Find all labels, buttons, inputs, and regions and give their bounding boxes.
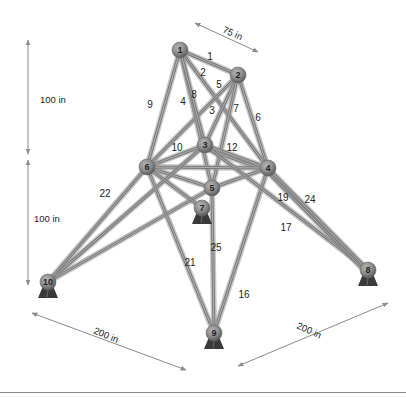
member-label-6: 6 <box>255 112 261 123</box>
member-20 <box>48 145 205 282</box>
member-label-24: 24 <box>304 194 316 205</box>
member-label-25: 25 <box>210 242 222 253</box>
node-9: 9 <box>206 325 222 341</box>
dimension-3: 200 in <box>32 313 186 370</box>
member-label-10: 10 <box>171 142 183 153</box>
dimension-4: 200 in <box>238 303 388 366</box>
node-label: 4 <box>265 163 270 173</box>
member-label-16: 16 <box>238 289 250 300</box>
node-label: 3 <box>202 140 207 150</box>
node-7: 7 <box>194 200 210 216</box>
member-label-22: 22 <box>99 188 111 199</box>
member-22 <box>48 167 147 282</box>
dimension-2: 100 in <box>28 160 60 285</box>
dimension-label: 200 in <box>92 325 120 345</box>
node-8: 8 <box>360 262 376 278</box>
member-label-17: 17 <box>280 222 292 233</box>
member-label-2: 2 <box>200 67 206 78</box>
node-label: 8 <box>365 265 370 275</box>
truss-diagram: 75 in100 in100 in200 in200 in 1234567891… <box>0 0 406 397</box>
dimension-label: 100 in <box>34 213 60 224</box>
node-1: 1 <box>172 42 188 58</box>
node-label: 6 <box>144 162 149 172</box>
member-25 <box>212 188 214 333</box>
member-6 <box>238 75 268 168</box>
node-label: 9 <box>211 328 216 338</box>
node-6: 6 <box>139 159 155 175</box>
dimension-label: 75 in <box>221 24 244 42</box>
member-label-3: 3 <box>209 105 215 116</box>
node-label: 10 <box>43 277 53 287</box>
member-label-21: 21 <box>184 257 196 268</box>
dimension-label: 200 in <box>295 320 323 341</box>
member-label-19: 19 <box>277 192 289 203</box>
member-label-7: 7 <box>233 103 239 114</box>
member-16 <box>214 168 268 333</box>
member-15 <box>147 167 268 168</box>
node-5: 5 <box>204 180 220 196</box>
dimension-1: 100 in <box>28 40 66 154</box>
node-4: 4 <box>260 160 276 176</box>
node-10: 10 <box>40 274 56 290</box>
node-label: 5 <box>209 183 214 193</box>
dimension-0: 75 in <box>195 23 258 52</box>
member-label-8: 8 <box>191 89 197 100</box>
node-label: 2 <box>235 70 240 80</box>
member-label-9: 9 <box>147 99 153 110</box>
node-label: 1 <box>177 45 182 55</box>
member-label-5: 5 <box>216 79 222 90</box>
node-3: 3 <box>197 137 213 153</box>
member-label-4: 4 <box>180 96 186 107</box>
member-label-12: 12 <box>226 142 238 153</box>
member-label-1: 1 <box>207 51 213 62</box>
node-2: 2 <box>230 67 246 83</box>
dimension-label: 100 in <box>40 94 66 105</box>
bottom-rule <box>0 392 406 393</box>
node-label: 7 <box>199 203 204 213</box>
